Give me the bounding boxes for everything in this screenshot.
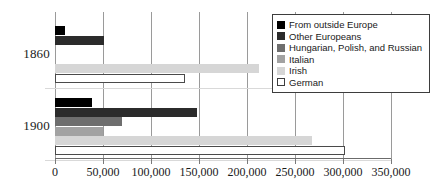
bar-1860-from-outside-europe [55,26,65,35]
bar-chart: 18601900 050,000100,000150,000200,000250… [0,0,433,188]
legend-swatch-icon [277,67,285,75]
legend-label: Irish [289,65,307,76]
x-tick-300000 [343,159,344,164]
bar-1900-other-europeans [55,108,197,117]
y-axis-label-1860: 1860 [4,46,50,62]
bar-1900-from-outside-europe [55,98,92,107]
legend-swatch-icon [277,44,285,52]
legend-item-italian[interactable]: Italian [277,54,425,66]
x-tick-0 [55,159,56,164]
x-tick-label-100000: 100,000 [132,165,171,180]
x-tick-label-50000: 50,000 [87,165,120,180]
x-tick-250000 [295,159,296,164]
legend-label: Italian [289,54,314,65]
legend-label: From outside Europe [289,19,378,30]
x-tick-label-0: 0 [52,165,58,180]
legend-swatch-icon [277,55,285,63]
chart-legend: From outside EuropeOther EuropeansHungar… [272,14,430,93]
legend-item-hungarian-polish-and-russian[interactable]: Hungarian, Polish, and Russian [277,42,425,54]
x-tick-50000 [103,159,104,164]
legend-swatch-icon [277,78,285,86]
bar-1900-irish [55,136,312,145]
x-axis: 050,000100,000150,000200,000250,000300,0… [0,159,433,188]
x-tick-150000 [199,159,200,164]
legend-label: German [289,77,323,88]
y-axis-label-1900: 1900 [4,118,50,134]
bar-1860-irish [55,64,259,73]
legend-item-german[interactable]: German [277,77,425,89]
x-tick-label-250000: 250,000 [276,165,315,180]
legend-item-irish[interactable]: Irish [277,65,425,77]
x-tick-label-200000: 200,000 [228,165,267,180]
x-tick-label-150000: 150,000 [180,165,219,180]
legend-swatch-icon [277,32,285,40]
x-tick-label-300000: 300,000 [324,165,363,180]
bar-1900-hungarian-polish-and-russian [55,117,122,126]
x-tick-350000 [391,159,392,164]
x-tick-200000 [247,159,248,164]
legend-label: Other Europeans [289,31,361,42]
bar-1900-german [55,146,345,155]
bar-1860-other-europeans [55,36,104,45]
x-tick-label-350000: 350,000 [372,165,411,180]
legend-label: Hungarian, Polish, and Russian [289,42,422,53]
legend-swatch-icon [277,21,285,29]
bar-1900-italian [55,127,103,136]
bar-1860-german [55,74,185,83]
legend-item-other-europeans[interactable]: Other Europeans [277,31,425,43]
x-tick-100000 [151,159,152,164]
legend-item-from-outside-europe[interactable]: From outside Europe [277,19,425,31]
